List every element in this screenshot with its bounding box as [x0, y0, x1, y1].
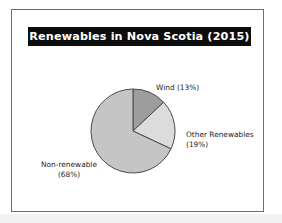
chart-title: Renewables in Nova Scotia (2015) [29, 31, 249, 42]
pie-label-non-renewable-pct: (68%) [32, 170, 106, 180]
pie-label-non-renewable: Non-renewable (68%) [32, 160, 106, 180]
pie-label-wind-text: Wind (13%) [156, 83, 199, 92]
pie-label-other-renewables-name: Other Renewables [186, 130, 254, 139]
pie-label-wind: Wind (13%) [156, 83, 199, 93]
pie-label-non-renewable-name: Non-renewable [41, 160, 97, 169]
pie-label-other-renewables: Other Renewables (19%) [186, 130, 254, 150]
chart-title-banner: Renewables in Nova Scotia (2015) [28, 27, 251, 46]
page-bottom-strip [0, 214, 282, 223]
pie-label-other-renewables-pct: (19%) [186, 140, 254, 150]
figure-frame: Wind (13%) Other Renewables (19%) Non-re… [11, 9, 264, 212]
page-canvas: Wind (13%) Other Renewables (19%) Non-re… [0, 0, 282, 223]
